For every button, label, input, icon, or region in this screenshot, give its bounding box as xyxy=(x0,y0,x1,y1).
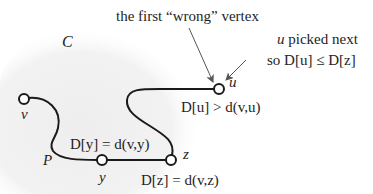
node-v xyxy=(19,94,29,104)
annotation-text: picked next xyxy=(285,31,358,47)
node-z-label: z xyxy=(183,147,189,162)
diagram-graphics xyxy=(0,0,373,194)
z-condition-label: D[z] = d(v,z) xyxy=(141,173,219,188)
y-condition-label: D[y] = d(v,y) xyxy=(70,137,150,152)
diagram-canvas: the first “wrong” vertex C u picked next… xyxy=(0,0,373,194)
node-z xyxy=(166,155,176,165)
u-condition-label: D[u] > d(v,u) xyxy=(181,100,261,115)
path-p-label: P xyxy=(43,153,52,168)
du-le-dz-annotation: so D[u] ≤ D[z] xyxy=(267,53,356,68)
annotation-text: the first xyxy=(116,8,166,24)
u-variable: u xyxy=(277,31,285,47)
u-picked-next-annotation: u picked next xyxy=(277,32,358,47)
cloud-label-c: C xyxy=(62,34,73,50)
node-u-label: u xyxy=(229,75,237,90)
wrong-vertex-annotation: the first “wrong” vertex xyxy=(116,9,259,24)
node-v-label: v xyxy=(21,107,28,122)
node-u xyxy=(214,84,224,94)
annotation-text: vertex xyxy=(218,8,259,24)
node-y xyxy=(97,155,107,165)
node-y-label: y xyxy=(99,170,106,185)
annotation-quoted-text: “wrong” xyxy=(166,8,218,24)
